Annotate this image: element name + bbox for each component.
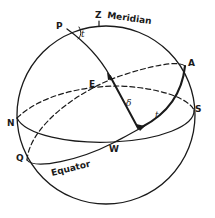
equator-t-arc — [142, 66, 185, 127]
label-equator-angle: t — [155, 110, 159, 120]
label-zenith: Z — [95, 10, 102, 20]
label-pole-angle: t — [81, 29, 85, 39]
horizon-front — [17, 110, 194, 142]
equator-back-dashed — [27, 64, 185, 160]
horizon-back-dashed — [17, 86, 194, 118]
star-arrow-upper-icon — [107, 72, 113, 80]
meridian-circle — [17, 26, 195, 204]
label-q: Q — [16, 153, 24, 163]
hour-circle-upper — [67, 29, 110, 76]
label-west: W — [109, 144, 119, 154]
label-a: A — [188, 58, 195, 68]
declination-arc — [110, 76, 138, 128]
label-south: S — [195, 104, 201, 114]
label-pole: P — [56, 21, 63, 31]
label-north: N — [7, 118, 15, 128]
equator-front — [27, 127, 142, 164]
label-equator: Equator — [50, 158, 92, 178]
label-east: E — [89, 79, 95, 89]
label-meridian: Meridian — [107, 10, 153, 26]
celestial-sphere-diagram: Z Meridian P A S N Q E W Equator t t δ — [0, 0, 215, 218]
label-declination: δ — [126, 98, 131, 108]
